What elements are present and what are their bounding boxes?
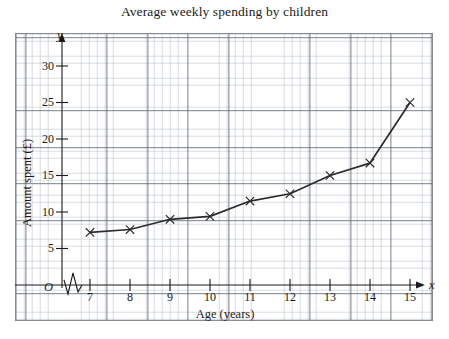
y-tick-label: 5 [28,241,54,256]
x-tick-label: 9 [158,290,182,305]
x-tick-label: 15 [398,290,422,305]
plot-surface [0,0,449,339]
y-tick-label: 25 [28,95,54,110]
x-tick-label: 12 [278,290,302,305]
x-tick-label: 8 [118,290,142,305]
x-axis-title: Age (years) [155,307,295,322]
chart-container: Average weekly spending by children [0,0,449,339]
y-tick-label: 30 [28,59,54,74]
data-series [86,98,414,236]
x-axis-letter: x [429,278,435,293]
origin-label: O [44,280,53,295]
x-tick-label: 14 [358,290,382,305]
data-point-marker [366,159,374,167]
x-tick-label: 11 [238,290,262,305]
y-axis [56,33,68,288]
y-axis-letter: y [57,28,63,43]
data-point-marker [406,98,414,106]
x-tick-label: 10 [198,290,222,305]
data-point-marker [326,171,334,179]
x-tick-label: 7 [78,290,102,305]
y-axis-title: Amount spent (£) [20,139,35,227]
x-tick-label: 13 [318,290,342,305]
